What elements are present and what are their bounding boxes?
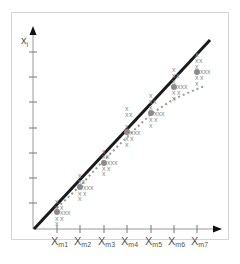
svg-text:x: x xyxy=(200,74,204,81)
svg-text:x: x xyxy=(195,63,199,70)
svg-text:x: x xyxy=(153,98,157,105)
svg-text:x: x xyxy=(172,78,176,85)
x-tick-labels: Xm1 Xm2 Xm3 Xm4 Xm5 Xm6 Xm7 xyxy=(51,235,208,248)
svg-text:Xm5: Xm5 xyxy=(145,235,162,248)
svg-text:x: x xyxy=(149,104,153,111)
observation-markers: xxx xxxxxx xxx xxxxxx xxx xxxxxx xxx xxx… xyxy=(55,51,211,227)
svg-text:Xm7: Xm7 xyxy=(191,235,208,248)
chart-canvas: xi Xm1 Xm2 Xm3 Xm4 Xm5 Xm6 Xm7 xxx xxxxx… xyxy=(0,0,240,264)
svg-text:x: x xyxy=(129,111,133,118)
svg-text:Xm4: Xm4 xyxy=(121,235,138,248)
svg-text:x: x xyxy=(102,170,106,177)
svg-text:x: x xyxy=(149,122,153,129)
x-axis-arrow-icon xyxy=(213,226,222,233)
identity-line xyxy=(34,40,210,229)
svg-text:x: x xyxy=(130,135,134,142)
svg-text:x: x xyxy=(60,215,64,222)
svg-text:x: x xyxy=(172,95,176,102)
svg-text:x: x xyxy=(154,116,158,123)
svg-text:x: x xyxy=(125,123,129,130)
svg-text:x: x xyxy=(195,80,199,87)
svg-text:x: x xyxy=(83,190,87,197)
svg-text:x: x xyxy=(55,220,59,227)
svg-text:x: x xyxy=(78,195,82,202)
svg-text:Xm3: Xm3 xyxy=(98,235,115,248)
svg-text:Xm6: Xm6 xyxy=(168,235,185,248)
svg-text:x: x xyxy=(176,72,180,79)
svg-text:Xm2: Xm2 xyxy=(74,235,91,248)
y-axis-label: xi xyxy=(21,34,29,48)
svg-text:x: x xyxy=(107,165,111,172)
svg-text:Xm1: Xm1 xyxy=(51,235,68,248)
svg-text:x: x xyxy=(177,89,181,96)
y-axis-arrow-icon xyxy=(30,26,37,35)
svg-text:x: x xyxy=(199,57,203,64)
svg-text:x: x xyxy=(125,141,129,148)
